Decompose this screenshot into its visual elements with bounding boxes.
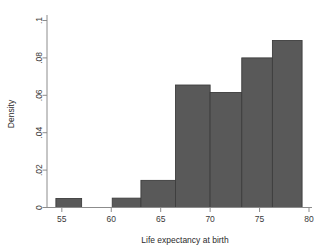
y-tick-label: .06 [34,89,44,101]
y-tick-label: .1 [34,17,44,24]
histogram-bar [272,41,302,208]
y-tick-label: .08 [34,52,44,64]
x-tick-label: 60 [107,214,117,224]
x-tick-label: 65 [156,214,166,224]
histogram-bar [141,180,176,207]
y-tick-label: .04 [34,127,44,139]
y-tick-label: 0 [34,205,44,210]
x-tick-label: 75 [255,214,265,224]
x-tick-label: 70 [205,214,215,224]
plot-svg: 556065707580 0.02.04.06.08.1 Life expect… [0,0,326,250]
histogram-bar [112,198,141,207]
y-axis-title: Density [6,99,16,128]
histogram-bar [176,85,211,207]
histogram-bar [242,58,273,208]
histogram-bar [210,93,242,208]
x-axis-title: Life expectancy at birth [141,235,229,245]
x-tick-label: 80 [304,214,314,224]
histogram-bar [56,199,82,208]
histogram-chart: 556065707580 0.02.04.06.08.1 Life expect… [0,0,326,250]
y-tick-label: .02 [34,164,44,176]
x-tick-label: 55 [57,214,67,224]
